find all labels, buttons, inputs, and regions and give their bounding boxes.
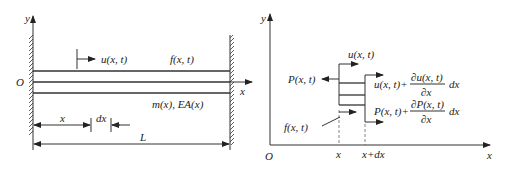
right-wall-support — [230, 35, 234, 145]
right-x-axis-label: x — [486, 149, 492, 161]
left-y-axis-label: y — [24, 12, 30, 24]
force-right-label: P(x, t)+ — [373, 105, 409, 118]
right-origin-label: O — [265, 150, 273, 162]
left-x-axis-label: x — [239, 85, 245, 97]
displacement-label: u(x, t) — [101, 53, 128, 66]
disp-left-label: u(x, t) — [348, 48, 375, 61]
beam-property-label: m(x), EA(x) — [152, 98, 204, 111]
tick-x-dx-label: x+dx — [361, 148, 385, 160]
body-force-leader — [322, 117, 340, 126]
force-right-tail: dx — [449, 105, 460, 117]
diagram-canvas: y x O u(x, t) f(x, t) m(x), EA(x) x dx — [0, 0, 507, 169]
right-figure: y x O x x+dx u(x, t) P(x, t) u(x, t)+ ∂u… — [260, 12, 492, 162]
dim-length-label: L — [139, 131, 146, 143]
disp-right-numerator: ∂u(x, t) — [411, 71, 443, 84]
force-right-denominator: ∂x — [421, 113, 431, 125]
force-right-numerator: ∂P(x, t) — [411, 98, 444, 111]
disp-right-tail: dx — [449, 78, 460, 90]
left-figure: y x O u(x, t) f(x, t) m(x), EA(x) x dx — [16, 12, 252, 150]
dim-x-label: x — [59, 112, 65, 124]
disp-right-denominator: ∂x — [421, 86, 431, 98]
force-left-label: P(x, t) — [287, 73, 316, 86]
body-force-label: f(x, t) — [284, 121, 308, 134]
left-wall-support — [29, 35, 33, 135]
dim-dx-label: dx — [96, 112, 107, 124]
disp-right-label: u(x, t)+ — [374, 78, 408, 91]
right-y-axis-label: y — [260, 12, 266, 24]
tick-x-label: x — [335, 148, 341, 160]
left-origin-label: O — [16, 76, 24, 88]
distributed-force-label: f(x, t) — [170, 53, 194, 66]
